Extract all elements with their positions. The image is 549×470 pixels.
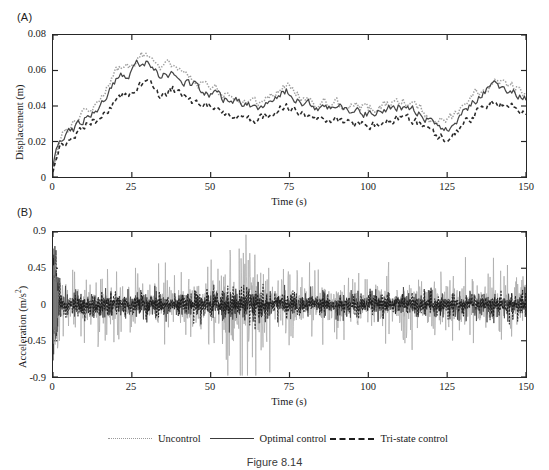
legend-line-solid-icon xyxy=(210,434,254,442)
displacement-xtick-125: 125 xyxy=(427,181,467,192)
acceleration-chart-canvas xyxy=(53,232,526,377)
legend-label-uncontrol: Uncontrol xyxy=(158,433,201,444)
displacement-xtick-50: 50 xyxy=(190,181,230,192)
legend-label-optimal-control: Optimal control xyxy=(260,433,327,444)
displacement-xtick-0: 0 xyxy=(32,181,72,192)
legend-label-tri-state-control: Tri-state control xyxy=(380,433,448,444)
acceleration-xtick-150: 150 xyxy=(506,381,546,392)
legend-line-dotted-icon xyxy=(108,434,152,442)
acceleration-ytick-0.9: 0.9 xyxy=(0,225,46,236)
acceleration-xtick-75: 75 xyxy=(269,381,309,392)
displacement-xtick-25: 25 xyxy=(111,181,151,192)
series-optimal-control xyxy=(53,60,526,166)
axis-ticks xyxy=(53,35,526,177)
series-uncontrol xyxy=(53,52,526,170)
legend-entry-uncontrol: Uncontrol xyxy=(108,433,201,444)
legend-line-dashed-icon xyxy=(330,434,374,442)
acceleration-plot-area xyxy=(52,231,527,378)
legend-entry-tri-state-control: Tri-state control xyxy=(330,433,448,444)
displacement-yaxis-title: Displacement (m) xyxy=(14,84,25,160)
panel-a-label: (A) xyxy=(17,11,32,23)
displacement-xtick-100: 100 xyxy=(348,181,388,192)
figure-caption: Figure 8.14 xyxy=(0,456,549,470)
displacement-xtick-150: 150 xyxy=(506,181,546,192)
acceleration-ytick-0.45: 0.45 xyxy=(0,262,46,273)
acceleration-xaxis-title: Time (s) xyxy=(239,396,339,407)
displacement-xaxis-title: Time (s) xyxy=(239,196,339,207)
acceleration-xtick-100: 100 xyxy=(348,381,388,392)
displacement-xtick-75: 75 xyxy=(269,181,309,192)
acceleration-xtick-25: 25 xyxy=(111,381,151,392)
acceleration-xtick-0: 0 xyxy=(32,381,72,392)
chart-legend: Uncontrol Optimal control Tri-state cont… xyxy=(108,428,448,448)
displacement-ytick-0.08: 0.08 xyxy=(0,28,46,39)
displacement-ytick-0.06: 0.06 xyxy=(0,64,46,75)
displacement-chart-canvas xyxy=(53,35,526,177)
acceleration-yaxis-title: Acceleration (m/s2) xyxy=(14,286,28,368)
acceleration-xtick-50: 50 xyxy=(190,381,230,392)
acceleration-xtick-125: 125 xyxy=(427,381,467,392)
series-tri-state-control xyxy=(53,80,526,172)
panel-b-label: (B) xyxy=(17,206,32,218)
displacement-plot-area xyxy=(52,34,527,178)
legend-entry-optimal-control: Optimal control xyxy=(210,433,327,444)
figure-container: (A) 0 0.02 0.04 0.06 0.08 0 25 50 75 100… xyxy=(0,0,549,470)
